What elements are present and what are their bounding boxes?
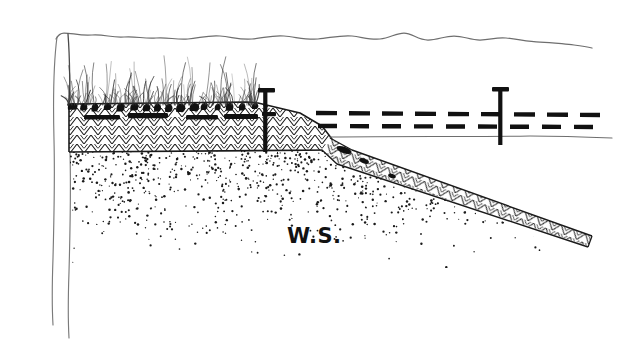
drawing-background — [0, 0, 637, 359]
label-water-surface: W.S. — [287, 224, 342, 248]
sketch-canvas: W.S. — [0, 0, 637, 359]
cross-section-drawing — [0, 0, 637, 359]
